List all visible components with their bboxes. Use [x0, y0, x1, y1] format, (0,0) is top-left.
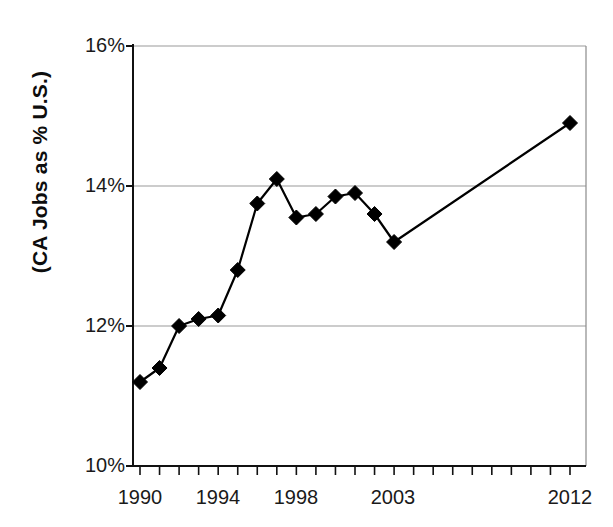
chart-container: (CA Jobs as % U.S.) 16% 14% 12% 10% 1990…	[0, 0, 613, 527]
y-axis-title: (CA Jobs as % U.S.)	[28, 0, 52, 362]
y-axis-ticks	[126, 46, 133, 466]
x-axis-ticks	[140, 466, 570, 475]
data-series-line	[140, 123, 570, 382]
gridlines	[133, 46, 586, 326]
x-tick-label-2012: 2012	[530, 486, 610, 509]
x-tick-label-1998: 1998	[256, 486, 336, 509]
y-tick-label-16: 16%	[55, 34, 125, 57]
x-tick-label-1990: 1990	[100, 486, 180, 509]
y-tick-label-12: 12%	[55, 314, 125, 337]
x-tick-label-1994: 1994	[178, 486, 258, 509]
y-tick-label-10: 10%	[55, 454, 125, 477]
y-tick-label-14: 14%	[55, 174, 125, 197]
data-point-markers	[133, 116, 578, 390]
x-tick-label-2003: 2003	[353, 486, 433, 509]
plot-area	[0, 0, 613, 527]
axis-lines	[133, 44, 586, 466]
